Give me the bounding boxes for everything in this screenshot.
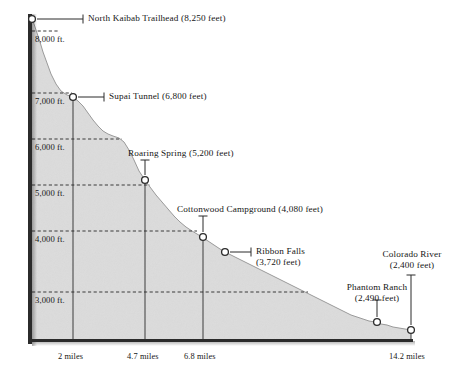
y-tick-label-3000: 3,000 ft. <box>35 295 65 306</box>
callout-label-phantom-ranch-name: Phantom Ranch <box>339 282 415 293</box>
callout-label-ribbon-falls-elevation: (3,720 feet) <box>256 257 305 268</box>
callout-label-ribbon-falls: Ribbon Falls (3,720 feet) <box>256 246 305 268</box>
marker-cottonwood-campground <box>200 234 207 241</box>
callout-label-ribbon-falls-name: Ribbon Falls <box>256 246 305 257</box>
marker-colorado-river <box>408 327 415 334</box>
marker-roaring-spring <box>142 177 149 184</box>
callout-label-colorado-river-elevation: (2,400 feet) <box>373 260 451 271</box>
callout-label-cottonwood-campground: Cottonwood Campground (4,080 feet) <box>177 204 323 215</box>
y-tick-label-8000: 8,000 ft. <box>35 34 65 45</box>
elevation-profile-graphic <box>0 0 465 383</box>
y-tick-label-6000: 6,000 ft. <box>35 142 65 153</box>
x-tick-label-6-8-miles: 6.8 miles <box>184 351 216 362</box>
y-tick-label-7000: 7,000 ft. <box>35 96 65 107</box>
callout-label-roaring-spring: Roaring Spring (5,200 feet) <box>128 148 234 159</box>
marker-trailhead <box>29 16 36 23</box>
callout-label-colorado-river-name: Colorado River <box>373 249 451 260</box>
callout-label-north-kaibab-trailhead: North Kaibab Trailhead (8,250 feet) <box>88 13 226 24</box>
x-tick-label-14-2-miles: 14.2 miles <box>389 351 425 362</box>
x-tick-label-4-7-miles: 4.7 miles <box>127 351 159 362</box>
marker-supai-tunnel <box>70 94 77 101</box>
x-tick-label-2-miles: 2 miles <box>58 351 83 362</box>
y-tick-label-4000: 4,000 ft. <box>35 234 65 245</box>
elevation-profile-chart: 8,000 ft. 7,000 ft. 6,000 ft. 5,000 ft. … <box>0 0 465 383</box>
callout-label-phantom-ranch: Phantom Ranch (2,490 feet) <box>339 282 415 304</box>
marker-phantom-ranch <box>374 319 381 326</box>
x-axis <box>28 339 415 346</box>
callout-label-phantom-ranch-elevation: (2,490 feet) <box>339 293 415 304</box>
y-tick-label-5000: 5,000 ft. <box>35 188 65 199</box>
callout-label-supai-tunnel: Supai Tunnel (6,800 feet) <box>109 91 207 102</box>
callout-label-colorado-river: Colorado River (2,400 feet) <box>373 249 451 271</box>
marker-ribbon-falls <box>222 249 229 256</box>
